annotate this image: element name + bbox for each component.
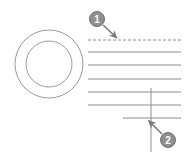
annulus-ring-group bbox=[15, 30, 83, 98]
callout-1-group[interactable]: 1 bbox=[90, 12, 118, 39]
figure-container: 1 2 bbox=[0, 0, 188, 155]
callout-2-label: 2 bbox=[165, 135, 171, 146]
ring-inner-circle bbox=[26, 41, 72, 87]
technical-drawing: 1 2 bbox=[0, 0, 188, 155]
ring-outer-circle bbox=[15, 30, 83, 98]
callout-1-label: 1 bbox=[94, 14, 100, 25]
horizontal-line-stack bbox=[88, 40, 181, 118]
callout-1-arrow bbox=[103, 25, 117, 38]
callout-2-group[interactable]: 2 bbox=[149, 121, 176, 148]
